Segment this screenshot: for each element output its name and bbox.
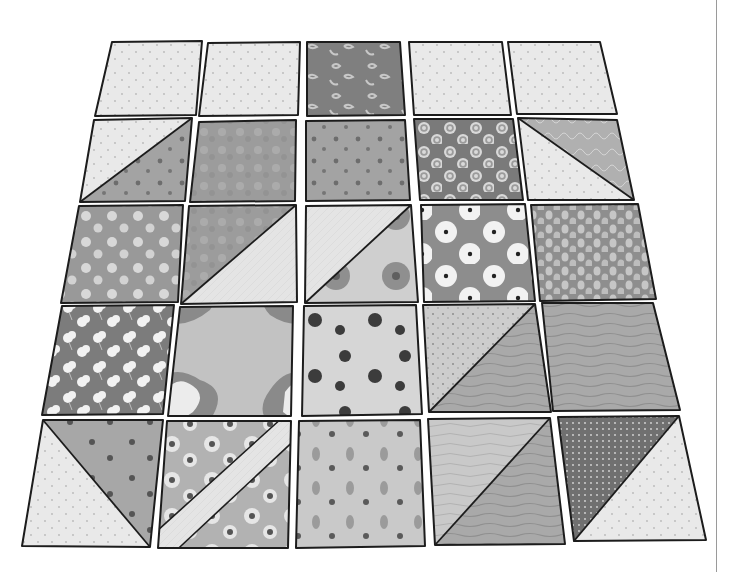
page-edge-divider <box>716 0 717 572</box>
quilt-block-r3c2 <box>181 205 297 304</box>
quilt-block-r4c5 <box>542 303 680 411</box>
quilt-block-r4c4 <box>423 304 551 412</box>
quilt-block-r3c4 <box>421 204 535 302</box>
quilt-block-r1c3 <box>307 42 405 116</box>
quilt-block-r3c5 <box>531 204 656 301</box>
quilt-block-r1c1 <box>95 41 202 116</box>
quilt-block-r2c5 <box>518 118 634 200</box>
quilt-block-r4c1 <box>42 305 174 415</box>
quilt-illustration <box>0 0 731 572</box>
quilt-block-r5c1 <box>22 420 163 547</box>
quilt-block-r2c3 <box>306 120 410 201</box>
quilt-block-r1c5 <box>508 42 617 114</box>
quilt-tiles <box>22 41 706 548</box>
quilt-svg <box>0 0 731 572</box>
quilt-block-r2c1 <box>80 118 192 202</box>
quilt-block-r5c2 <box>158 421 291 548</box>
quilt-block-r2c4 <box>414 119 523 200</box>
quilt-block-r1c2 <box>199 42 300 116</box>
quilt-block-r1c4 <box>409 42 511 115</box>
quilt-block-r4c3 <box>302 305 422 416</box>
quilt-block-r3c3 <box>305 205 418 303</box>
quilt-block-r3c1 <box>61 205 183 303</box>
quilt-block-r2c2 <box>190 120 296 202</box>
quilt-block-r5c5 <box>558 416 706 541</box>
quilt-block-r4c2 <box>168 306 293 416</box>
quilt-block-r5c4 <box>428 418 565 545</box>
quilt-block-r5c3 <box>296 420 425 548</box>
